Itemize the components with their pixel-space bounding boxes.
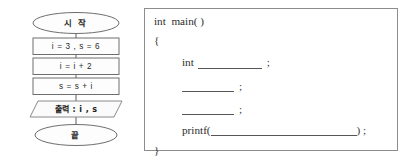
printf-blank-field[interactable] bbox=[211, 125, 357, 136]
flowchart-node-output-label: 출력 : i , s bbox=[55, 104, 98, 114]
code-line-printf: printf( ) ; bbox=[154, 125, 397, 136]
code-printf-close: ) ; bbox=[357, 125, 367, 136]
code-main-signature: int main( ) bbox=[154, 16, 204, 27]
worksheet-page: 시 작 i = 3 , s = 6 i = i + 2 s = s + i 출력… bbox=[0, 0, 415, 159]
code-close-brace: } bbox=[154, 145, 159, 156]
code-statement-1-semicolon: ; bbox=[239, 81, 242, 92]
code-declaration-semicolon: ; bbox=[267, 57, 270, 68]
code-line-declaration: int ; bbox=[154, 57, 397, 68]
declaration-blank-field[interactable] bbox=[198, 58, 262, 69]
flowchart-node-init-label: i = 3 , s = 6 bbox=[52, 42, 100, 51]
code-open-brace: { bbox=[154, 35, 159, 46]
flowchart-node-sum-label: s = s + i bbox=[59, 82, 93, 91]
code-line-close-brace: } bbox=[154, 145, 397, 156]
flowchart-diagram: 시 작 i = 3 , s = 6 i = i + 2 s = s + i 출력… bbox=[0, 0, 140, 159]
statement-1-blank-field[interactable] bbox=[182, 81, 234, 92]
code-line-open-brace: { bbox=[154, 35, 397, 46]
code-line-statement-1: ; bbox=[154, 81, 397, 92]
code-line-statement-2: ; bbox=[154, 104, 397, 115]
flowchart-node-start-label: 시 작 bbox=[64, 18, 87, 28]
code-line-main: int main( ) bbox=[154, 16, 397, 27]
code-template-panel: int main( ) { int ; ; ; printf( bbox=[144, 8, 398, 151]
flowchart-svg: 시 작 i = 3 , s = 6 i = i + 2 s = s + i 출력… bbox=[0, 0, 140, 159]
code-printf-keyword: printf( bbox=[182, 125, 211, 136]
code-statement-2-semicolon: ; bbox=[239, 104, 242, 115]
flowchart-node-end-label: 끝 bbox=[71, 130, 80, 140]
flowchart-node-step-label: i = i + 2 bbox=[60, 62, 92, 71]
code-template-body: int main( ) { int ; ; ; printf( bbox=[145, 9, 397, 150]
code-int-keyword: int bbox=[182, 57, 194, 68]
statement-2-blank-field[interactable] bbox=[182, 104, 234, 115]
